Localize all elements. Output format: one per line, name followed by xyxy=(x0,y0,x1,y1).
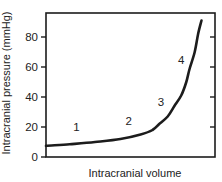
y-tick-label: 0 xyxy=(32,151,38,163)
chart-canvas: Intracranial pressure (mmHg) Intracrania… xyxy=(0,0,222,182)
y-tick-label: 40 xyxy=(25,91,38,103)
y-tick-label: 80 xyxy=(25,31,38,43)
plot-frame xyxy=(46,13,215,157)
stage-label-4: 4 xyxy=(178,54,185,66)
stage-label-1: 1 xyxy=(73,121,79,133)
y-axis-label: Intracranial pressure (mmHg) xyxy=(0,11,12,154)
stage-label-2: 2 xyxy=(126,115,132,127)
curve-stage-annotations: 1234 xyxy=(73,54,185,134)
y-tick-label: 60 xyxy=(25,61,38,73)
axis-ticks: 020406080 xyxy=(25,31,215,163)
y-tick-label: 20 xyxy=(25,121,38,133)
intracranial-pressure-volume-chart: Intracranial pressure (mmHg) Intracrania… xyxy=(0,0,222,182)
pressure-volume-curve xyxy=(46,21,202,146)
x-axis-label: Intracranial volume xyxy=(89,167,182,179)
stage-label-3: 3 xyxy=(158,96,164,108)
